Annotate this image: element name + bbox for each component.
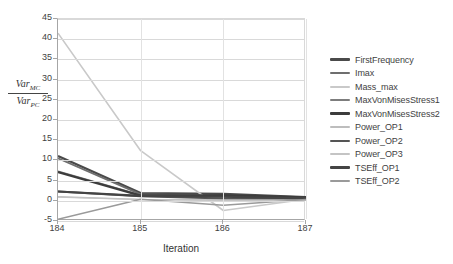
y-axis-tick-label: 30 (4, 73, 52, 83)
y-axis-tick-label: 5 (4, 174, 52, 184)
legend-item[interactable]: Imax (330, 67, 453, 81)
gridline (58, 39, 304, 40)
x-axis-tick-label: 187 (285, 223, 325, 233)
legend-swatch (330, 140, 350, 142)
legend-swatch (330, 86, 350, 88)
gridline (58, 201, 304, 202)
legend-item[interactable]: Power_OP1 (330, 121, 453, 135)
gridline (58, 160, 304, 161)
gridline (58, 120, 304, 121)
legend-label: FirstFrequency (355, 55, 414, 65)
legend-label: MaxVonMisesStress1 (355, 95, 440, 105)
chart-figure: VarMC VarPC 454035302520151050-5 1841851… (0, 0, 453, 264)
y-axis-tick-label: 0 (4, 194, 52, 204)
x-axis-tick-label: 185 (120, 223, 160, 233)
category-line (306, 19, 307, 219)
series-line (58, 199, 306, 219)
legend-item[interactable]: Power_OP2 (330, 134, 453, 148)
legend-label: Power_OP3 (355, 149, 403, 159)
gridline (58, 140, 304, 141)
gridline (58, 59, 304, 60)
legend-label: Power_OP1 (355, 122, 403, 132)
gridline (58, 80, 304, 81)
x-axis-title: Iteration (57, 243, 305, 254)
y-axis-tick-label: 25 (4, 93, 52, 103)
legend-swatch (330, 180, 350, 182)
legend-swatch (330, 99, 350, 101)
legend-label: Imax (355, 68, 374, 78)
y-axis-tick-label: 15 (4, 133, 52, 143)
x-axis-tick-label: 186 (202, 223, 242, 233)
legend-item[interactable]: MaxVonMisesStress1 (330, 94, 453, 108)
legend-item[interactable]: TSEff_OP1 (330, 161, 453, 175)
y-axis-tick-label: 20 (4, 113, 52, 123)
legend-swatch (330, 112, 350, 115)
plot-area (57, 18, 305, 220)
y-axis-tick-label: 45 (4, 12, 52, 22)
legend-label: TSEff_OP2 (355, 176, 399, 186)
series-line (58, 156, 306, 197)
legend-item[interactable]: TSEff_OP2 (330, 175, 453, 189)
legend-item[interactable]: FirstFrequency (330, 53, 453, 67)
legend-label: TSEff_OP1 (355, 163, 399, 173)
category-line (223, 19, 224, 219)
gridline (58, 181, 304, 182)
legend-item[interactable]: MaxVonMisesStress2 (330, 107, 453, 121)
legend-swatch (330, 153, 350, 155)
legend-swatch (330, 126, 350, 128)
x-axis-tick-label: 184 (37, 223, 77, 233)
y-axis-tick-label: 40 (4, 32, 52, 42)
legend: FirstFrequencyImaxMass_maxMaxVonMisesStr… (330, 53, 453, 188)
legend-item[interactable]: Mass_max (330, 80, 453, 94)
legend-label: Mass_max (355, 82, 398, 92)
series-line (58, 158, 306, 198)
legend-swatch (330, 166, 350, 169)
category-line (141, 19, 142, 219)
gridline (58, 100, 304, 101)
legend-label: MaxVonMisesStress2 (355, 109, 440, 119)
y-axis-tick-label: 35 (4, 52, 52, 62)
legend-label: Power_OP2 (355, 136, 403, 146)
gridline (58, 221, 304, 222)
legend-swatch (330, 72, 350, 74)
legend-item[interactable]: Power_OP3 (330, 148, 453, 162)
y-axis-tick-label: 10 (4, 153, 52, 163)
gridline (58, 19, 304, 20)
legend-swatch (330, 58, 350, 61)
